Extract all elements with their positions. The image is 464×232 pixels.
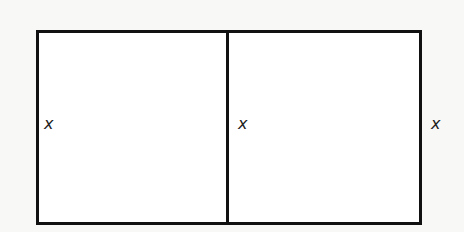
outer-rectangle <box>36 30 422 225</box>
left-side-label: x <box>44 116 53 132</box>
middle-divider-line <box>226 30 229 225</box>
right-side-label: x <box>431 116 440 132</box>
middle-divider-label: x <box>238 116 247 132</box>
diagram-canvas: x x x <box>0 0 464 232</box>
